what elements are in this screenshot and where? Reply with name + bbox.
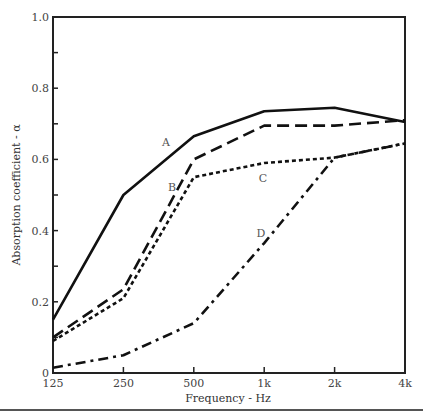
- series-label-c: C: [259, 172, 267, 185]
- series-line-c: [53, 143, 405, 341]
- x-tick-label: 125: [43, 377, 64, 390]
- y-tick-label: 0.8: [32, 82, 50, 95]
- absorption-chart: 00.20.40.60.81.0 1252505001k2k4k ABCD Fr…: [0, 0, 423, 417]
- x-tick-label: 4k: [398, 377, 412, 390]
- y-tick-label: 1.0: [32, 11, 50, 24]
- series-label-b: B: [168, 181, 176, 194]
- series-label-d: D: [257, 227, 266, 240]
- series-line-d: [53, 143, 405, 367]
- y-axis-title: Absorption coefficient - α: [10, 124, 23, 267]
- y-tick-label: 0.2: [32, 296, 50, 309]
- series-line-a: [53, 108, 405, 320]
- series-label-a: A: [161, 136, 171, 149]
- plot-axes: [53, 17, 405, 373]
- y-tick-label: 0.4: [32, 225, 50, 238]
- x-tick-label: 250: [113, 377, 134, 390]
- bottom-rule-divider: [0, 409, 423, 411]
- plot-frame: [53, 17, 405, 373]
- x-tick-label: 1k: [257, 377, 271, 390]
- x-tick-label: 500: [183, 377, 204, 390]
- data-series: [53, 108, 405, 368]
- x-axis-ticks: 1252505001k2k4k: [43, 367, 413, 390]
- x-tick-label: 2k: [328, 377, 342, 390]
- y-axis-ticks: 00.20.40.60.81.0: [32, 11, 59, 380]
- x-axis-title: Frequency - Hz: [185, 392, 271, 405]
- y-tick-label: 0.6: [32, 153, 50, 166]
